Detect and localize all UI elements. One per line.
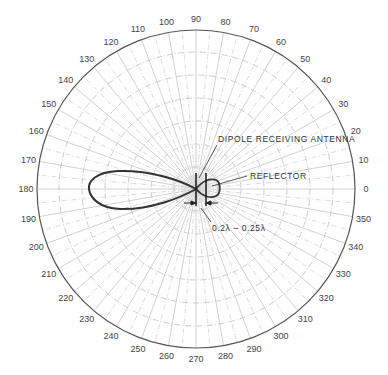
angle-label-220: 220 bbox=[58, 293, 73, 303]
angle-label-210: 210 bbox=[41, 269, 56, 279]
radial-line-105 bbox=[155, 35, 196, 189]
angle-label-130: 130 bbox=[79, 54, 94, 64]
polar-radiation-diagram: 0102030405060708090100110120130140150160… bbox=[0, 0, 388, 375]
angle-label-290: 290 bbox=[247, 344, 262, 354]
angle-label-50: 50 bbox=[300, 54, 310, 64]
radial-line-265 bbox=[182, 189, 196, 347]
angle-label-200: 200 bbox=[29, 242, 44, 252]
angle-label-0: 0 bbox=[363, 184, 368, 194]
angle-label-270: 270 bbox=[188, 354, 203, 364]
angle-label-240: 240 bbox=[103, 331, 118, 341]
radial-line-65 bbox=[196, 45, 263, 189]
radial-line-95 bbox=[182, 31, 196, 189]
angle-label-300: 300 bbox=[273, 331, 288, 341]
angle-label-280: 280 bbox=[218, 351, 233, 361]
angle-label-100: 100 bbox=[159, 17, 174, 27]
radial-line-165 bbox=[42, 148, 196, 189]
angle-label-80: 80 bbox=[220, 17, 230, 27]
angle-label-90: 90 bbox=[191, 14, 201, 24]
angle-label-120: 120 bbox=[103, 37, 118, 47]
angle-label-160: 160 bbox=[29, 126, 44, 136]
radial-line-275 bbox=[196, 189, 210, 347]
angle-label-320: 320 bbox=[319, 293, 334, 303]
spacing-label: 0.2λ – 0.25λ bbox=[212, 223, 266, 233]
radial-line-295 bbox=[196, 189, 263, 333]
angle-label-340: 340 bbox=[348, 242, 363, 252]
angle-label-140: 140 bbox=[58, 75, 73, 85]
angle-label-330: 330 bbox=[336, 269, 351, 279]
radial-line-75 bbox=[196, 35, 237, 189]
angle-label-230: 230 bbox=[79, 314, 94, 324]
radial-line-285 bbox=[196, 189, 237, 343]
angle-label-350: 350 bbox=[356, 214, 371, 224]
radial-line-255 bbox=[155, 189, 196, 343]
angle-label-250: 250 bbox=[130, 344, 145, 354]
reflector-label: REFLECTOR bbox=[250, 171, 307, 181]
angle-label-310: 310 bbox=[298, 314, 313, 324]
angle-label-60: 60 bbox=[276, 37, 286, 47]
angle-label-260: 260 bbox=[159, 351, 174, 361]
radial-line-175 bbox=[38, 175, 196, 189]
angle-label-170: 170 bbox=[21, 155, 36, 165]
radial-line-115 bbox=[129, 45, 196, 189]
angle-label-10: 10 bbox=[358, 155, 368, 165]
angle-label-150: 150 bbox=[41, 99, 56, 109]
radial-line-85 bbox=[196, 31, 210, 189]
angle-label-110: 110 bbox=[131, 24, 145, 34]
angle-label-30: 30 bbox=[338, 99, 348, 109]
angle-label-70: 70 bbox=[249, 24, 259, 34]
angle-label-180: 180 bbox=[18, 184, 33, 194]
angle-label-40: 40 bbox=[321, 75, 331, 85]
dipole-leader-line bbox=[199, 145, 217, 178]
radial-line-245 bbox=[129, 189, 196, 333]
angle-label-190: 190 bbox=[21, 214, 36, 224]
dipole-label: DIPOLE RECEIVING ANTENNA bbox=[218, 134, 355, 144]
